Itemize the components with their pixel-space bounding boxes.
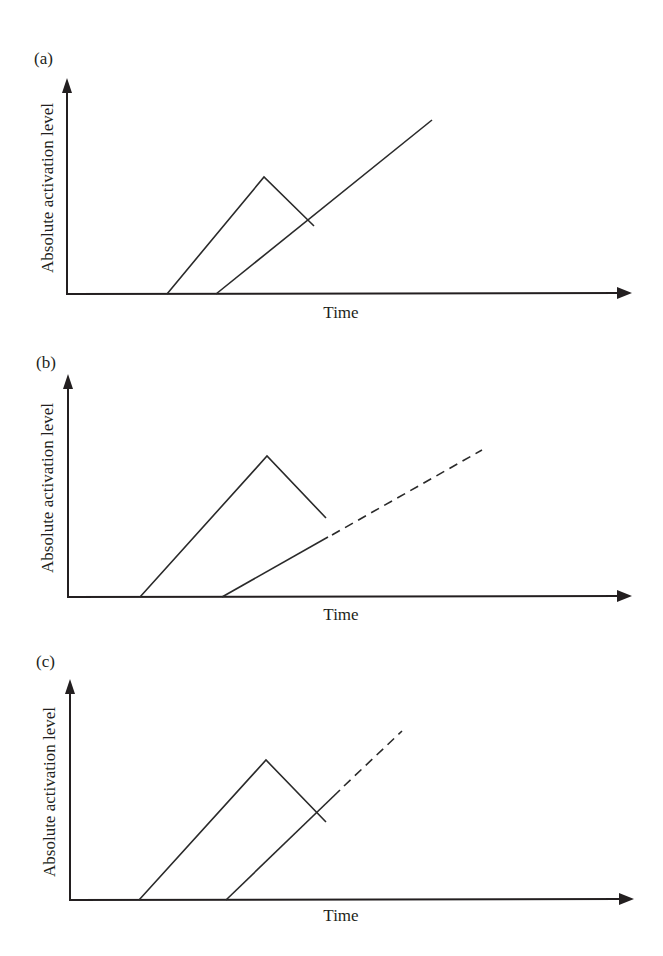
x-axis-title: Time [323, 303, 358, 322]
panel-label: (a) [34, 49, 53, 68]
panel-a: (a) Absolute activation level Time [34, 49, 632, 322]
first-item-curve [167, 177, 314, 294]
y-axis-title: Absolute activation level [38, 103, 57, 273]
x-axis [69, 899, 620, 900]
y-axis-title: Absolute activation level [40, 707, 59, 877]
figure: (a) Absolute activation level Time (b) A… [0, 0, 663, 956]
x-axis-title: Time [323, 605, 358, 624]
second-item-projection [344, 731, 402, 786]
second-item-projection [332, 450, 482, 535]
panel-c: (c) Absolute activation level Time [36, 652, 634, 925]
x-axis [67, 596, 620, 597]
panel-b: (b) Absolute activation level Time [36, 353, 632, 624]
x-axis-arrow-icon [617, 590, 632, 602]
panel-label: (b) [36, 353, 56, 372]
first-item-curve [140, 456, 326, 597]
x-axis-arrow-icon [619, 893, 634, 905]
x-axis-title: Time [323, 906, 358, 925]
second-item-curve [222, 537, 328, 597]
second-item-curve [216, 120, 432, 294]
panel-label: (c) [36, 652, 55, 671]
second-item-curve [226, 790, 340, 900]
x-axis-arrow-icon [617, 287, 632, 299]
x-axis [66, 293, 620, 294]
y-axis-title: Absolute activation level [38, 403, 57, 573]
